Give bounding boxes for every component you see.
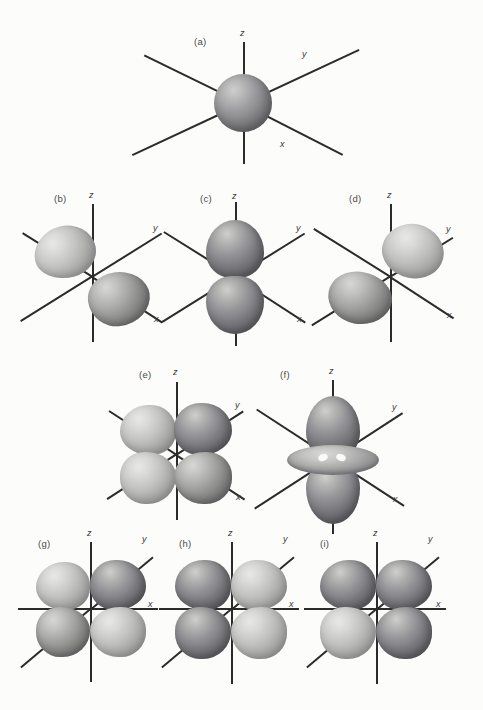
orbital-lobe-pz-upper bbox=[206, 220, 264, 278]
axis-label-x-d: x bbox=[447, 310, 452, 320]
orbital-torus-dz2 bbox=[287, 445, 379, 475]
axis-label-z-e: z bbox=[173, 367, 178, 377]
panel-i: (i) z x y bbox=[296, 524, 471, 694]
axis-label-y-a: y bbox=[302, 49, 307, 59]
axis-label-z-b: z bbox=[89, 190, 94, 200]
panel-e: (e) z y x bbox=[96, 362, 271, 527]
panel-label-b: (b) bbox=[54, 193, 67, 204]
axis-label-x-i: x bbox=[436, 599, 441, 609]
orbital-lobe-pz-lower bbox=[206, 276, 264, 334]
axis-label-x-f: x bbox=[393, 494, 398, 504]
axis-x-d bbox=[390, 276, 455, 319]
orbital-lobe-s bbox=[214, 74, 272, 132]
axis-z-d bbox=[390, 204, 392, 342]
axis-x-neg-d bbox=[313, 228, 390, 277]
orbital-figure: (a) z y x (b) z y x (c) z y bbox=[0, 0, 483, 710]
panel-d: (d) z y x bbox=[300, 186, 468, 341]
orbital-lobe-i-ur bbox=[376, 560, 432, 610]
axis-y-b bbox=[92, 233, 162, 278]
axis-label-y-e: y bbox=[235, 400, 240, 410]
axis-label-y-f: y bbox=[392, 402, 397, 412]
panel-label-g: (g) bbox=[38, 538, 51, 549]
axis-label-y-d: y bbox=[446, 224, 451, 234]
panel-label-i: (i) bbox=[320, 538, 329, 549]
panel-label-e: (e) bbox=[139, 369, 152, 380]
panel-label-f: (f) bbox=[280, 369, 290, 380]
panel-c: (c) z y x bbox=[156, 186, 316, 346]
orbital-lobe-h-lr bbox=[231, 607, 287, 659]
orbital-lobe-g-ll bbox=[36, 607, 90, 657]
axis-z-h bbox=[231, 542, 233, 684]
panel-a: (a) z y x bbox=[170, 14, 320, 154]
axis-y-neg-b bbox=[20, 276, 92, 322]
axis-label-x-e: x bbox=[236, 492, 241, 502]
axis-label-z-c: z bbox=[232, 191, 237, 201]
orbital-lobe-e-ur bbox=[174, 403, 232, 455]
orbital-lobe-g-lr bbox=[90, 607, 146, 657]
orbital-lobe-g-ul bbox=[36, 562, 90, 610]
axis-label-z-g: z bbox=[87, 528, 92, 538]
panel-b: (b) z y x bbox=[16, 186, 176, 341]
orbital-lobe-i-ll bbox=[320, 607, 376, 659]
orbital-lobe-e-ul bbox=[120, 405, 176, 455]
axis-label-x-h: x bbox=[289, 599, 294, 609]
axis-label-y-h: y bbox=[283, 534, 288, 544]
axis-label-z-a: z bbox=[240, 28, 245, 38]
orbital-lobe-h-ul bbox=[175, 560, 231, 610]
orbital-lobe-h-ll bbox=[175, 607, 231, 659]
orbital-lobe-i-ul bbox=[320, 560, 376, 610]
axis-z-e bbox=[176, 382, 178, 520]
axis-z-b bbox=[92, 204, 94, 342]
panel-g: (g) z x y bbox=[14, 524, 176, 694]
orbital-lobe-py-lower bbox=[324, 267, 396, 329]
orbital-lobe-h-ur bbox=[231, 560, 287, 610]
axis-label-y-g: y bbox=[142, 534, 147, 544]
axis-label-y-i: y bbox=[428, 534, 433, 544]
axis-label-z-h: z bbox=[228, 528, 233, 538]
axis-label-x-g: x bbox=[148, 599, 153, 609]
axis-label-z-i: z bbox=[373, 528, 378, 538]
panel-label-a: (a) bbox=[194, 36, 207, 47]
panel-label-c: (c) bbox=[200, 193, 212, 204]
orbital-lobe-e-ll bbox=[120, 452, 176, 504]
panel-label-h: (h) bbox=[179, 538, 192, 549]
orbital-lobe-g-ur bbox=[90, 560, 146, 610]
axis-label-z-f: z bbox=[329, 366, 334, 376]
axis-z-g bbox=[90, 542, 92, 682]
axis-label-z-d: z bbox=[387, 190, 392, 200]
orbital-lobe-e-lr bbox=[174, 452, 232, 504]
panel-label-d: (d) bbox=[349, 193, 362, 204]
axis-label-x-a: x bbox=[280, 139, 285, 149]
axis-z-i bbox=[376, 542, 378, 684]
orbital-lobe-i-lr bbox=[376, 607, 432, 659]
panel-h: (h) z x y bbox=[155, 524, 317, 694]
panel-f: (f) z y x bbox=[246, 362, 424, 537]
